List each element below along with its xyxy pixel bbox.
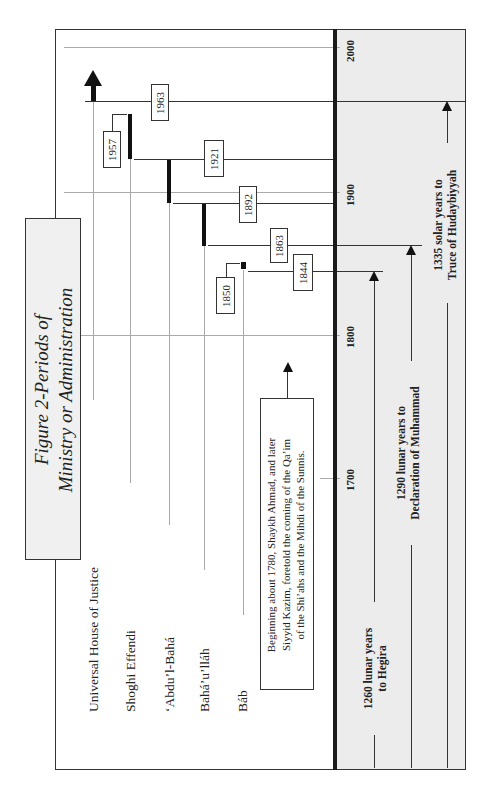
leader-1963 <box>85 101 465 102</box>
period-1260-arrow-icon <box>369 271 379 281</box>
bracket-1957 <box>112 114 127 132</box>
bracket-1850 <box>226 263 240 278</box>
year-box-1921: 1921 <box>204 140 224 177</box>
time-axis <box>333 29 337 770</box>
uhj-continuing-arrow-icon <box>84 70 102 86</box>
period-1260-line-upper <box>374 279 375 602</box>
gridline-1800 <box>77 335 340 336</box>
gridline-1700 <box>320 478 340 479</box>
year-box-1957: 1957 <box>103 131 121 168</box>
note-arrow-shaft <box>287 370 288 398</box>
bar-bab <box>241 262 246 269</box>
leader-1844 <box>248 271 383 272</box>
row-line-shoghi <box>130 158 131 483</box>
period-1260-label: 1260 lunar years to Hegira <box>361 602 389 735</box>
gridline-2000 <box>64 47 340 48</box>
period-1335-line-upper <box>447 108 448 143</box>
leader-1863 <box>208 245 422 246</box>
period-1335-arrow-icon <box>442 101 452 111</box>
period-1290-line-lower <box>411 545 412 768</box>
figure-title-line1: Figure 2-Periods of <box>30 225 54 555</box>
period-1290-label: 1290 lunar years to Declaration of Muham… <box>394 368 422 538</box>
year-box-1892: 1892 <box>239 186 257 223</box>
row-line-abdulbaha <box>169 203 170 525</box>
row-label-bab: Báb <box>235 690 251 712</box>
tick-1800: 1800 <box>344 326 356 348</box>
note-box: Beginning about 1780, Shaykh Ahmad, and … <box>260 398 314 690</box>
row-label-bahaullah: Bahá’u’lláh <box>197 648 213 712</box>
row-line-bahaullah <box>204 245 205 570</box>
tick-1700: 1700 <box>344 469 356 491</box>
note-arrow-icon <box>283 362 293 372</box>
figure-title-line2: Ministry or Administration <box>54 225 78 555</box>
bar-abdul-baha <box>167 159 171 203</box>
gridline-1900 <box>64 192 340 193</box>
period-1290-line-upper <box>411 253 412 361</box>
tick-2000: 2000 <box>344 40 356 62</box>
row-label-uhj: Universal House of Justice <box>86 567 102 712</box>
year-box-1844: 1844 <box>293 254 313 291</box>
bar-shoghi-effendi <box>128 114 132 159</box>
row-line-uhj <box>93 100 94 400</box>
bar-bahaullah <box>202 203 206 246</box>
period-1290-arrow-icon <box>406 245 416 255</box>
row-line-bab <box>243 270 244 615</box>
row-label-abdul-baha: ‘Abdu’l-Bahá <box>162 637 178 712</box>
figure-title-box: Figure 2-Periods of Ministry or Administ… <box>25 218 81 560</box>
leader-1921 <box>134 159 334 160</box>
tick-1900: 1900 <box>344 184 356 206</box>
row-label-shoghi-effendi: Shoghi Effendi <box>123 630 139 712</box>
year-box-1850: 1850 <box>216 277 235 314</box>
period-1335-label: 1335 solar years to Truce of Hudaybiyyah <box>431 155 459 295</box>
year-box-1863: 1863 <box>270 228 288 263</box>
year-box-1963: 1963 <box>151 84 169 121</box>
period-1260-line-lower <box>374 735 375 768</box>
period-1335-line-lower <box>447 303 448 768</box>
uhj-arrow-shaft <box>91 85 96 102</box>
